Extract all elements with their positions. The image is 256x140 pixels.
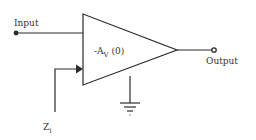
ground-icon bbox=[120, 103, 140, 115]
input-label: Input bbox=[14, 18, 39, 28]
impedance-label: Zi bbox=[43, 122, 52, 135]
output-label: Output bbox=[206, 56, 238, 66]
amplifier-diagram: Input -AV (0) Output Zi bbox=[0, 0, 256, 140]
gain-label: -AV (0) bbox=[94, 46, 124, 59]
output-terminal-circle bbox=[212, 48, 216, 52]
impedance-wire bbox=[55, 69, 76, 112]
arrow-icon bbox=[76, 65, 83, 74]
